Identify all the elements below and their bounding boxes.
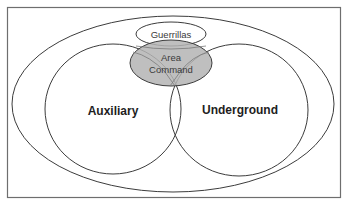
- auxiliary-label: Auxiliary: [88, 104, 139, 118]
- underground-label: Underground: [202, 103, 278, 117]
- area-command-label-line2: Command: [149, 64, 193, 75]
- area-command-label-line1: Area: [161, 52, 182, 63]
- guerrillas-label: Guerrillas: [151, 29, 192, 40]
- venn-diagram: Guerrillas Area Command Auxiliary Underg…: [0, 0, 347, 204]
